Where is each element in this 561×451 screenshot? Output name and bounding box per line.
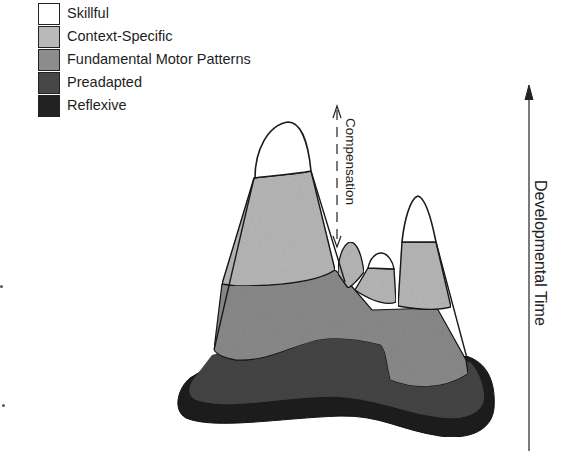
peak-left-context-specific bbox=[222, 171, 335, 286]
scan-artifact bbox=[2, 404, 5, 407]
landscape-figure bbox=[0, 0, 561, 451]
peak-middle-skillful bbox=[368, 253, 394, 269]
scan-artifact bbox=[0, 285, 3, 288]
peak-left-skillful bbox=[255, 122, 311, 178]
developmental-time-label: Developmental Time bbox=[531, 180, 549, 326]
peak-right-skillful bbox=[402, 196, 436, 242]
compensation-arrow bbox=[333, 106, 341, 247]
peak-right-context-specific bbox=[398, 242, 451, 309]
compensation-label: Compensation bbox=[343, 118, 358, 205]
